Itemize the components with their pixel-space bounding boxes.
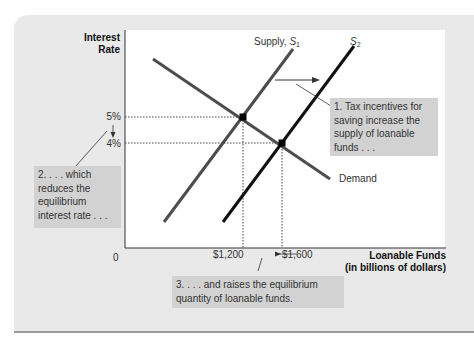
equilibrium-point-initial <box>240 114 247 121</box>
y-axis-label-line1: Interest <box>60 32 120 44</box>
x-axis-label-line1: Loanable Funds <box>330 250 446 262</box>
callout-step1: 1. Tax incentives for saving increase th… <box>330 98 438 156</box>
y-axis-label: Interest Rate <box>60 32 120 56</box>
equilibrium-point-new <box>279 140 286 147</box>
callout3-leader <box>258 258 262 271</box>
shift-arrowhead-icon <box>312 77 320 83</box>
guide-lines <box>125 117 282 248</box>
origin-label: 0 <box>113 252 119 264</box>
callout-step3: 3. . . . and raises the equilibrium quan… <box>172 276 344 308</box>
quantity-arrowhead-icon <box>275 252 281 257</box>
supply-s2-label: S2 <box>350 36 361 51</box>
x-tick-1200: $1,200 <box>213 249 244 261</box>
supply-curve-s1 <box>164 49 293 222</box>
callout-step2: 2. . . . which reduces the equilibrium i… <box>34 166 121 228</box>
demand-label: Demand <box>339 173 377 185</box>
y-axis-label-line2: Rate <box>60 44 120 56</box>
x-axis-label-line2: (in billions of dollars) <box>330 262 446 274</box>
y-tick-5: 5% <box>95 111 121 123</box>
supply-s1-label: Supply, S1 <box>254 36 300 51</box>
x-axis-label: Loanable Funds (in billions of dollars) <box>330 250 446 274</box>
x-tick-1600: $1,600 <box>282 249 313 261</box>
y-tick-4: 4% <box>95 138 121 150</box>
